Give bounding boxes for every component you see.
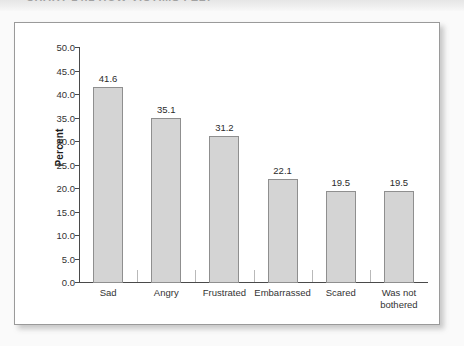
bar-value-label: 19.5 — [332, 177, 351, 188]
x-axis-category-label: Sad — [100, 287, 117, 299]
bar-value-label: 22.1 — [273, 165, 292, 176]
figure-page: CHART 14.1 HOW VICTIMS FELT Percent 50.0… — [0, 0, 464, 346]
x-axis-category-label: Scared — [326, 287, 356, 299]
running-head-strip: CHART 14.1 HOW VICTIMS FELT — [0, 0, 464, 11]
bar-series: 41.635.131.222.119.519.5 — [79, 47, 428, 283]
bar — [209, 136, 239, 283]
x-axis-category-label: Embarrassed — [254, 287, 311, 299]
bar — [93, 87, 123, 283]
bar — [384, 191, 414, 283]
bar — [326, 191, 356, 283]
plot-area: Percent 50.045.040.035.030.025.020.015.0… — [15, 23, 441, 326]
bar-value-label: 19.5 — [390, 177, 409, 188]
bar — [268, 179, 298, 283]
running-head-text: CHART 14.1 HOW VICTIMS FELT — [26, 0, 213, 3]
bar-value-label: 35.1 — [157, 104, 176, 115]
x-axis-category-label: Frustrated — [203, 287, 246, 299]
chart-panel: Percent 50.045.040.035.030.025.020.015.0… — [14, 22, 440, 325]
bar-value-label: 31.2 — [215, 122, 234, 133]
bar-value-label: 41.6 — [99, 73, 118, 84]
bar — [151, 118, 181, 283]
x-axis-category-label: Angry — [154, 287, 179, 299]
x-axis-category-label: Was not bothered — [380, 287, 418, 310]
x-axis-category-labels: SadAngryFrustratedEmbarrassedScaredWas n… — [79, 287, 428, 323]
